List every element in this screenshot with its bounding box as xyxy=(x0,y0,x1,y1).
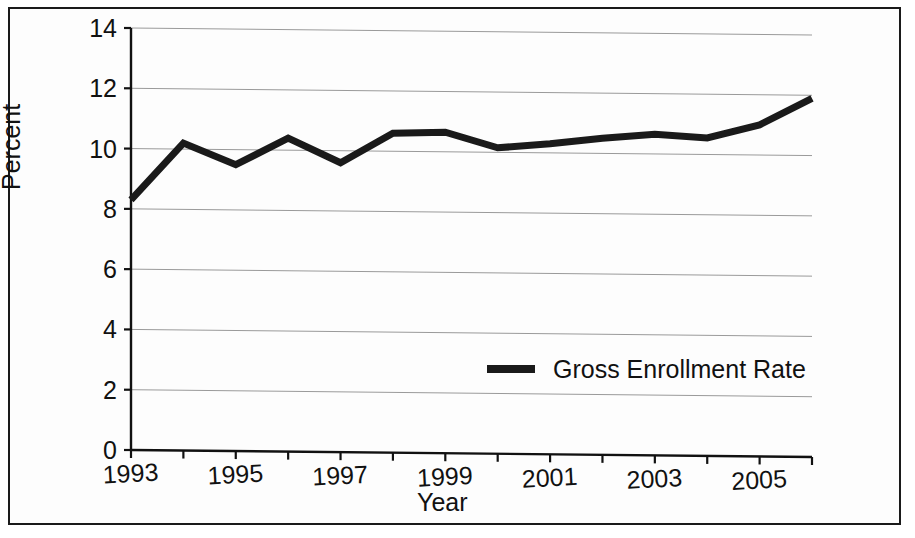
gridline xyxy=(131,329,812,336)
y-axis-title: Percent xyxy=(0,104,26,190)
x-tick-label: 1995 xyxy=(207,459,264,490)
gridline xyxy=(131,88,812,95)
gridline xyxy=(131,209,812,216)
y-tick-label: 6 xyxy=(103,255,117,283)
x-tick-label: 1997 xyxy=(312,460,369,491)
data-series-group xyxy=(131,98,812,200)
y-tick-label: 8 xyxy=(103,195,117,223)
y-tick-label: 14 xyxy=(89,14,117,42)
legend-swatch xyxy=(487,365,535,373)
y-tick-label: 10 xyxy=(89,135,117,163)
x-tick-label: 2005 xyxy=(731,464,788,495)
x-tick-label: 2003 xyxy=(626,463,683,494)
chart-legend: Gross Enrollment Rate xyxy=(487,355,806,383)
line-chart: 02468101214 1993199519971999200120032005… xyxy=(0,0,915,538)
gridline xyxy=(131,390,812,397)
x-axis-title: Year xyxy=(417,488,468,517)
legend-label: Gross Enrollment Rate xyxy=(553,355,806,383)
x-axis-line xyxy=(131,450,812,457)
y-tick-label-group: 02468101214 xyxy=(89,14,117,464)
gridline xyxy=(131,269,812,276)
y-tick-label: 2 xyxy=(103,376,117,404)
gridlines-group xyxy=(131,28,812,397)
x-tick-label: 1993 xyxy=(102,458,159,489)
y-tick-label: 4 xyxy=(103,315,117,343)
data-line xyxy=(131,98,812,200)
gridline xyxy=(131,149,812,156)
axis-lines-group xyxy=(131,28,812,457)
y-tick-label: 12 xyxy=(89,74,117,102)
chart-figure: 02468101214 1993199519971999200120032005… xyxy=(0,0,915,538)
x-tick-label: 2001 xyxy=(521,462,578,493)
gridline xyxy=(131,28,812,35)
